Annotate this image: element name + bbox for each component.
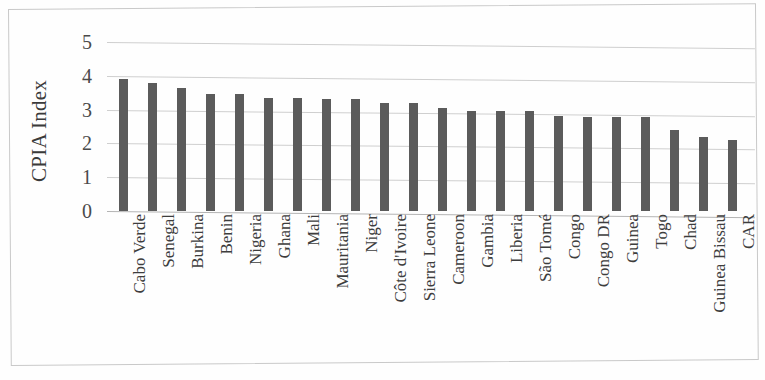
x-axis-category-label-text: Ghana: [276, 214, 293, 258]
bar: [554, 116, 563, 211]
x-axis-category-label-text: Chad: [682, 214, 699, 250]
bar: [641, 117, 650, 211]
x-axis-category-label: São Tomé: [534, 214, 551, 282]
x-axis-category-label: Senegal: [157, 214, 174, 268]
x-axis-category-label-text: Niger: [363, 214, 380, 253]
y-axis-tick: 1: [66, 167, 92, 187]
bar: [206, 94, 215, 211]
bar: [728, 140, 737, 211]
x-axis-category-labels: Cabo VerdeSenegalBurkinaBeninNigeriaGhan…: [107, 214, 755, 354]
x-axis-category-label: Cameroon: [447, 214, 464, 285]
y-axis-tick-labels: 543210: [66, 30, 92, 222]
x-axis-category-label: Côte d'Ivoire: [389, 214, 406, 303]
bar: [351, 99, 360, 211]
x-axis-category-label: Liberia: [505, 214, 522, 263]
bar: [438, 108, 447, 211]
x-axis-category-label-text: CAR: [740, 214, 757, 249]
x-axis-category-label-text: Liberia: [508, 214, 525, 263]
x-axis-category-label-text: Sierra Leone: [421, 214, 438, 301]
x-axis-category-label-text: Congo: [566, 214, 583, 259]
y-axis-tick: 3: [66, 100, 92, 120]
x-axis-category-label-text: Congo DR: [595, 214, 612, 287]
x-axis-category-label-text: Cameroon: [450, 214, 467, 285]
x-axis-category-label: Niger: [360, 214, 377, 253]
bar: [409, 103, 418, 211]
x-axis-category-label: Mali: [302, 214, 319, 246]
bar: [119, 79, 128, 211]
x-axis-category-label: Nigeria: [244, 214, 261, 265]
bar: [148, 83, 157, 211]
bar: [583, 117, 592, 211]
x-axis-category-label: Chad: [679, 214, 696, 250]
y-axis-tick: 0: [66, 201, 92, 221]
x-axis-category-label-text: Benin: [218, 214, 235, 255]
x-axis-category-label: Mauritania: [331, 214, 348, 289]
x-axis-category-label-text: Côte d'Ivoire: [392, 214, 409, 303]
bar: [467, 111, 476, 211]
x-axis-category-label: Burkina: [186, 214, 203, 269]
x-axis-category-label-text: Nigeria: [247, 214, 264, 265]
bar: [293, 98, 302, 211]
bar: [264, 98, 273, 211]
x-axis-category-label: Congo: [563, 214, 580, 259]
y-axis-title: CPIA Index: [26, 46, 52, 216]
bar-series: [107, 42, 755, 211]
bar: [670, 130, 679, 211]
x-axis-category-label: Gambia: [476, 214, 493, 268]
bar: [525, 111, 534, 211]
x-axis-category-label-text: São Tomé: [537, 214, 554, 282]
bar: [380, 103, 389, 211]
y-axis-tick: 2: [66, 133, 92, 153]
bar: [496, 111, 505, 211]
y-axis-tick: 5: [66, 32, 92, 52]
x-axis-category-label-text: Guinea Bissau: [711, 214, 728, 313]
x-axis-category-label-text: Togo: [653, 214, 670, 249]
x-axis-category-label: Togo: [650, 214, 667, 249]
y-axis-tick: 4: [66, 66, 92, 86]
x-axis-category-label-text: Guinea: [624, 214, 641, 263]
x-axis-category-label: Ghana: [273, 214, 290, 258]
bar: [322, 99, 331, 211]
x-axis-category-label: CAR: [737, 214, 754, 249]
bar: [177, 88, 186, 211]
bar: [699, 137, 708, 211]
x-axis-category-label: Sierra Leone: [418, 214, 435, 301]
x-axis-category-label: Guinea Bissau: [708, 214, 725, 313]
x-axis-category-label-text: Cabo Verde: [131, 214, 148, 293]
x-axis-category-label-text: Senegal: [160, 214, 177, 268]
x-axis-category-label: Congo DR: [592, 214, 609, 287]
x-axis-category-label-text: Mali: [305, 214, 322, 246]
plot-area: [107, 42, 755, 211]
x-axis-category-label-text: Burkina: [189, 214, 206, 269]
bar: [235, 94, 244, 211]
x-axis-category-label: Guinea: [621, 214, 638, 263]
x-axis-category-label-text: Mauritania: [334, 214, 351, 289]
x-axis-category-label: Benin: [215, 214, 232, 255]
x-axis-category-label-text: Gambia: [479, 214, 496, 268]
cpia-index-bar-chart: CPIA Index 543210 Cabo VerdeSenegalBurki…: [0, 0, 765, 380]
x-axis-category-label: Cabo Verde: [128, 214, 145, 293]
bar: [612, 117, 621, 211]
